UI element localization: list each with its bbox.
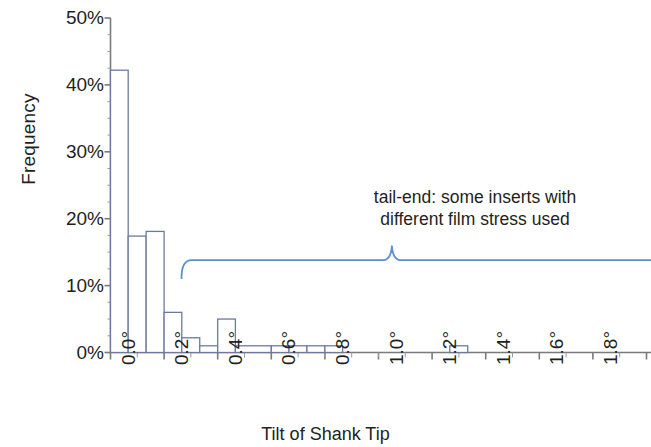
tail-end-annotation: tail-end: some inserts with different fi… bbox=[320, 186, 630, 230]
x-tick-label: 1.4° bbox=[494, 330, 513, 364]
x-tick-label: 1.2° bbox=[440, 330, 459, 364]
x-tick-label: 1.0° bbox=[387, 330, 406, 364]
x-tick-label: 0.2° bbox=[172, 330, 191, 364]
y-axis-title: Frequency bbox=[18, 64, 40, 214]
x-axis-title: Tilt of Shank Tip bbox=[0, 424, 651, 445]
x-tick-label: 0.0° bbox=[119, 330, 138, 364]
x-tick-label: 1.8° bbox=[601, 330, 620, 364]
histogram-chart: 50% 40% 30% 20% 10% 0% 0.0°0.2°0.4°0.6°0… bbox=[0, 0, 651, 447]
annotation-line-1: tail-end: some inserts with bbox=[320, 186, 630, 208]
annotation-line-2: different film stress used bbox=[320, 208, 630, 230]
x-tick-label: 0.6° bbox=[279, 330, 298, 364]
x-tick-label: 0.4° bbox=[226, 330, 245, 364]
x-tick-label: 0.8° bbox=[333, 330, 352, 364]
x-tick-label: 1.6° bbox=[547, 330, 566, 364]
